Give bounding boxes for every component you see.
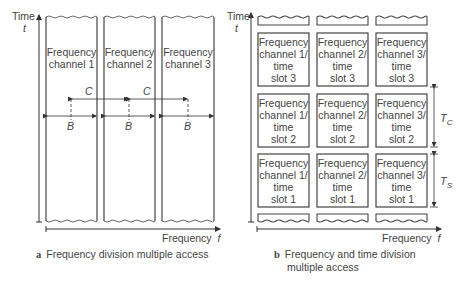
bandwidth-label-b2: B xyxy=(125,120,132,132)
slot-cell-ch1-slot1: Frequencychannel 1/timeslot 1 xyxy=(258,157,309,205)
slot-cell-ch1-slot3: Frequencychannel 1/timeslot 3 xyxy=(258,36,309,84)
caption-a: aFrequency division multiple access xyxy=(36,248,209,261)
top-strips xyxy=(258,16,427,25)
slot-cell-ch3-slot3: Frequencychannel 3/timeslot 3 xyxy=(376,36,427,84)
time-axis-label-a: Time xyxy=(12,10,35,22)
slot-cell-ch3-slot2: Frequencychannel 3/timeslot 2 xyxy=(376,97,427,145)
channel-center-lines xyxy=(71,99,188,120)
caption-b: bFrequency and time division multiple ac… xyxy=(274,248,416,273)
frequency-axis-label-b: Frequency f xyxy=(382,232,440,244)
spacing-label-c1: C xyxy=(85,85,93,97)
slot-cell-ch1-slot2: Frequencychannel 1/timeslot 2 xyxy=(258,97,309,145)
time-axis-symbol-b: t xyxy=(235,22,238,34)
bandwidth-label-b3: B xyxy=(184,120,191,132)
channel-label-3: Frequency channel 3 xyxy=(162,46,214,70)
time-axis-symbol-a: t xyxy=(23,22,26,34)
ts-label: TS xyxy=(440,175,452,192)
slot-cell-ch2-slot2: Frequencychannel 2/timeslot 2 xyxy=(317,97,368,145)
spacing-label-c2: C xyxy=(143,85,151,97)
slot-cell-ch2-slot1: Frequencychannel 2/timeslot 1 xyxy=(317,157,368,205)
slot-cell-ch3-slot1: Frequencychannel 3/timeslot 1 xyxy=(376,157,427,205)
channel-label-2: Frequency channel 2 xyxy=(104,46,155,70)
time-axis-label-b: Time xyxy=(227,10,250,22)
channel-label-1: Frequency channel 1 xyxy=(46,46,97,70)
slot-cell-ch2-slot3: Frequencychannel 2/timeslot 3 xyxy=(317,36,368,84)
frequency-axis-label-a: Frequency f xyxy=(162,232,220,244)
tc-label: TC xyxy=(440,112,453,129)
bandwidth-label-b1: B xyxy=(67,120,74,132)
bottom-strips xyxy=(258,214,427,222)
